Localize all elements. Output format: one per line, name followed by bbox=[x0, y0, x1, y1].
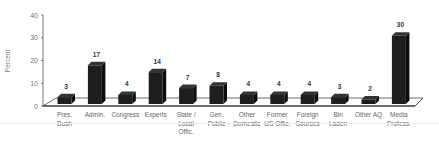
bars bbox=[58, 32, 410, 104]
y-tick-label: 0 bbox=[34, 103, 38, 110]
bar bbox=[301, 91, 319, 104]
value-label: 4 bbox=[125, 80, 129, 87]
bar bbox=[118, 91, 136, 104]
category-label: Congress bbox=[111, 111, 140, 119]
y-tick-label: 10 bbox=[30, 80, 38, 87]
value-label: 4 bbox=[307, 80, 311, 87]
category-label: Media bbox=[390, 111, 408, 118]
category-label: Bin bbox=[333, 111, 343, 118]
value-label: 14 bbox=[154, 58, 162, 65]
y-axis-label: Percent bbox=[4, 50, 11, 73]
value-label: 2 bbox=[368, 85, 372, 92]
value-label: 3 bbox=[338, 83, 342, 90]
y-tick-label: 20 bbox=[30, 57, 38, 64]
category-label: Experts bbox=[145, 111, 168, 119]
category-label: State / bbox=[177, 111, 196, 118]
y-axis: 010203040Percent bbox=[4, 12, 43, 110]
value-label: 4 bbox=[277, 80, 281, 87]
bar bbox=[392, 32, 410, 104]
bar bbox=[149, 69, 167, 104]
value-label: 7 bbox=[186, 74, 190, 81]
category-label: Gen. bbox=[209, 111, 223, 118]
bar bbox=[362, 96, 380, 104]
category-label: Former bbox=[267, 111, 289, 118]
value-label: 17 bbox=[93, 51, 101, 58]
category-label: Pres. bbox=[57, 111, 72, 118]
bar bbox=[210, 82, 228, 104]
category-label: Admin. bbox=[85, 111, 105, 118]
y-tick-label: 40 bbox=[30, 12, 38, 19]
bar bbox=[88, 62, 106, 104]
value-label: 8 bbox=[216, 71, 220, 78]
bar bbox=[331, 94, 349, 104]
bar bbox=[58, 94, 76, 104]
category-label: Offic. bbox=[179, 128, 194, 135]
y-tick-label: 30 bbox=[30, 34, 38, 41]
bar bbox=[240, 91, 258, 104]
category-label: Foreign bbox=[297, 111, 319, 119]
category-label: Other AQ bbox=[355, 111, 382, 119]
value-label: 30 bbox=[397, 21, 405, 28]
bar bbox=[179, 85, 197, 104]
bar bbox=[270, 91, 288, 104]
divider-line bbox=[0, 123, 439, 124]
value-label: 3 bbox=[64, 83, 68, 90]
category-label: Other bbox=[239, 111, 256, 118]
value-label: 4 bbox=[247, 80, 251, 87]
